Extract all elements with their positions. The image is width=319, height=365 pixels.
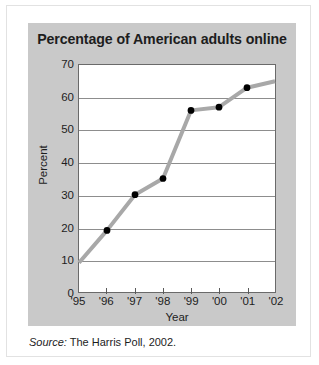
plot-area: [78, 64, 276, 293]
source-label: Source:: [29, 336, 67, 348]
data-point-marker: [160, 175, 167, 182]
x-tick-mark: [135, 288, 136, 294]
data-point-marker: [104, 227, 111, 234]
x-tick-mark: [191, 288, 192, 294]
data-point-marker: [244, 84, 251, 91]
source-note: Source: The Harris Poll, 2002.: [29, 336, 176, 348]
y-tick-label: 60: [44, 91, 74, 103]
source-text: The Harris Poll, 2002.: [70, 336, 176, 348]
y-tick-label: 40: [44, 156, 74, 168]
x-tick-mark: [248, 288, 249, 294]
chart-title: Percentage of American adults online: [28, 31, 296, 47]
x-tick-mark: [106, 288, 107, 294]
y-tick-label: 10: [44, 254, 74, 266]
y-tick-label: 20: [44, 222, 74, 234]
y-axis-tick-labels: 706050403020100: [42, 64, 74, 293]
data-point-marker: [188, 107, 195, 114]
line-series: [79, 65, 275, 292]
series-line: [79, 81, 275, 263]
data-point-marker: [132, 191, 139, 198]
figure-card: Percentage of American adults online Per…: [6, 5, 311, 357]
x-tick-mark: [219, 288, 220, 294]
x-axis-title: Year: [78, 311, 276, 323]
x-tick-mark: [163, 288, 164, 294]
y-tick-label: 30: [44, 189, 74, 201]
chart-panel: Percentage of American adults online Per…: [28, 23, 296, 326]
y-tick-label: 70: [44, 58, 74, 70]
y-tick-label: 50: [44, 123, 74, 135]
x-tick-label: '02: [259, 295, 293, 307]
data-point-marker: [216, 104, 223, 111]
